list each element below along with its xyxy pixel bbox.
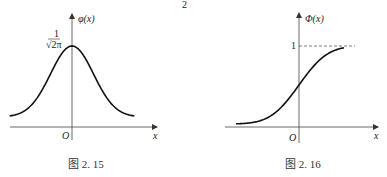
page-marker: 2 xyxy=(182,0,187,10)
caption-fig-2-16: 图 2. 16 xyxy=(285,158,321,170)
chart-cdf: Φ(x) 1 O x 图 2. 16 xyxy=(225,13,379,170)
peak-label-denominator: √2π xyxy=(46,39,62,50)
x-axis-label: x xyxy=(373,130,379,141)
y-axis-label: φ(x) xyxy=(78,13,95,25)
y-axis-label: Φ(x) xyxy=(305,13,324,25)
asymptote-label: 1 xyxy=(291,40,296,51)
cdf-curve xyxy=(236,48,344,124)
x-axis-label: x xyxy=(152,130,158,141)
peak-label-numerator: 1 xyxy=(54,28,59,39)
chart-density: φ(x) O x 1 √2π 图 2. 15 xyxy=(10,13,158,170)
figure-canvas: 2 φ(x) O x 1 √2π 图 2. 15 Φ(x) 1 O x 图 2.… xyxy=(0,0,387,177)
origin-label: O xyxy=(62,130,69,141)
origin-label: O xyxy=(289,132,296,143)
caption-fig-2-15: 图 2. 15 xyxy=(68,158,104,170)
